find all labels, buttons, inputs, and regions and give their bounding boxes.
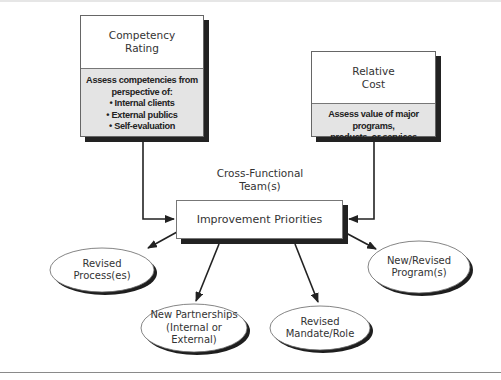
outcome-new-programs: New/Revised Program(s) (369, 247, 469, 287)
outcome-new-partnerships: New Partnerships (Internal or External) (142, 306, 246, 350)
relative-cost-description: Assess value of major programs, products… (312, 103, 435, 136)
competency-rating-box: Competency Rating Assess competencies fr… (80, 15, 204, 137)
cross-functional-team-caption: Cross-Functional Team(s) (200, 167, 320, 193)
bullet-internal-clients: Internal clients (81, 98, 203, 110)
connector-competency-to-priorities (143, 136, 174, 219)
bullet-self-evaluation: Self-evaluation (81, 121, 203, 133)
arrow-to-revised-mandate (295, 244, 318, 302)
relative-cost-box: Relative Cost Assess value of major prog… (311, 51, 436, 137)
competency-rating-description: Assess competencies from perspective of:… (81, 68, 203, 136)
competency-perspective-list: Internal clients External publics Self-e… (81, 98, 203, 133)
bullet-external-publics: External publics (81, 110, 203, 122)
connector-cost-to-priorities (349, 136, 374, 219)
improvement-priorities-box: Improvement Priorities (176, 200, 343, 239)
outcome-revised-mandate: Revised Mandate/Role (270, 308, 370, 348)
relative-cost-title: Relative Cost (312, 52, 435, 103)
improvement-priorities-label: Improvement Priorities (197, 213, 323, 226)
competency-rating-title: Competency Rating (81, 16, 203, 68)
outcome-revised-process: Revised Process(es) (52, 250, 152, 290)
arrow-to-new-partnerships (196, 244, 219, 301)
arrow-to-revised-process (148, 232, 177, 248)
bottom-rule (0, 372, 501, 373)
